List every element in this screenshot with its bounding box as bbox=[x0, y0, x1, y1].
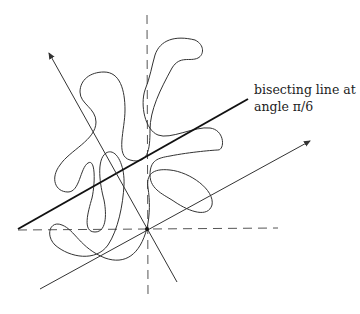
bisecting-line-label: bisecting line at angle π/6 bbox=[254, 81, 356, 115]
arrow-line-left bbox=[49, 53, 177, 282]
bisecting-line bbox=[18, 99, 248, 229]
label-line-2: angle π/6 bbox=[254, 98, 356, 115]
origin-point bbox=[145, 227, 149, 231]
label-line-1: bisecting line at bbox=[254, 81, 356, 98]
diagram-canvas bbox=[0, 0, 360, 314]
closed-curve bbox=[50, 38, 223, 260]
arrow-line-right bbox=[40, 141, 310, 289]
